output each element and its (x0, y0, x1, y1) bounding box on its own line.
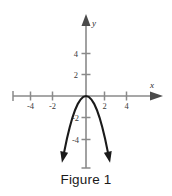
x-tick-label-pos4: 4 (124, 101, 129, 111)
y-tick-label-pos4: 4 (74, 49, 79, 59)
y-axis-arrowhead (82, 14, 91, 26)
x-tick-label-neg4: -4 (27, 101, 35, 111)
parabola-left-arrowhead (60, 151, 68, 163)
x-tick-label-pos2: 2 (102, 101, 106, 111)
y-axis-group: 4 2 -2 -4 y (72, 14, 96, 168)
coordinate-plane: -4 -2 2 4 x 4 2 -2 -4 y (0, 0, 172, 196)
x-axis-label: x (149, 80, 154, 90)
x-axis-group: -4 -2 2 4 x (13, 80, 163, 111)
figure-caption: Figure 1 (0, 172, 172, 187)
figure-container: -4 -2 2 4 x 4 2 -2 -4 y (0, 0, 172, 196)
x-axis-arrowhead (150, 92, 163, 101)
y-tick-label-neg4: -4 (72, 135, 80, 145)
y-tick-label-pos2: 2 (74, 70, 78, 80)
parabola-right-arrowhead (104, 151, 112, 163)
x-tick-label-neg2: -2 (49, 101, 56, 111)
y-axis-label: y (91, 18, 96, 28)
